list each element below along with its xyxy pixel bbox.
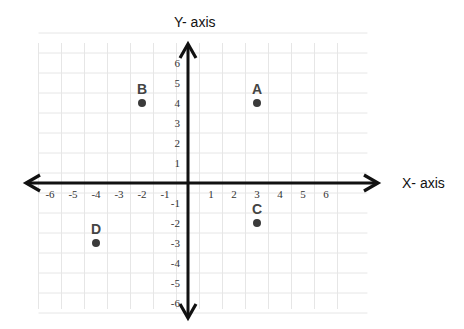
data-point-a: A: [252, 81, 262, 107]
point-label: B: [137, 81, 147, 97]
coordinate-plane: -6-5-4-3-2-1123456 654321-1-2-3-4-5-6 Y-…: [0, 0, 464, 329]
x-tick-label: -6: [45, 188, 55, 200]
y-axis-title: Y- axis: [174, 14, 216, 30]
point-label: A: [252, 81, 262, 97]
x-tick-label: -4: [91, 188, 101, 200]
point-marker-icon: [138, 99, 146, 107]
y-tick-label: 3: [175, 117, 181, 129]
point-marker-icon: [253, 99, 261, 107]
grid-lines: [39, 33, 368, 313]
y-tick-label: -3: [171, 237, 181, 249]
y-tick-label: 6: [175, 57, 181, 69]
y-tick-label: -4: [171, 257, 181, 269]
x-tick-label: -1: [160, 188, 169, 200]
x-tick-label: 4: [277, 188, 283, 200]
x-tick-label: 1: [208, 188, 214, 200]
y-tick-label: 1: [175, 157, 181, 169]
x-axis-title: X- axis: [402, 175, 445, 191]
x-tick-label: 3: [254, 188, 260, 200]
y-tick-label: 5: [175, 77, 181, 89]
y-tick-label: -5: [171, 277, 181, 289]
data-point-d: D: [91, 221, 101, 247]
y-tick-label: 2: [175, 137, 181, 149]
x-tick-label: 5: [300, 188, 306, 200]
point-label: D: [91, 221, 101, 237]
axes: [26, 44, 378, 318]
data-point-c: C: [252, 201, 262, 227]
x-tick-label: 6: [323, 188, 329, 200]
data-point-b: B: [137, 81, 147, 107]
point-marker-icon: [92, 239, 100, 247]
y-tick-label: -6: [171, 297, 181, 309]
x-tick-label: -3: [114, 188, 124, 200]
y-tick-label: -2: [171, 217, 180, 229]
x-tick-label: -2: [137, 188, 146, 200]
point-marker-icon: [253, 219, 261, 227]
x-tick-label: -5: [68, 188, 78, 200]
x-tick-label: 2: [231, 188, 237, 200]
point-label: C: [252, 201, 262, 217]
y-tick-label: 4: [175, 97, 181, 109]
y-tick-label: -1: [171, 197, 180, 209]
